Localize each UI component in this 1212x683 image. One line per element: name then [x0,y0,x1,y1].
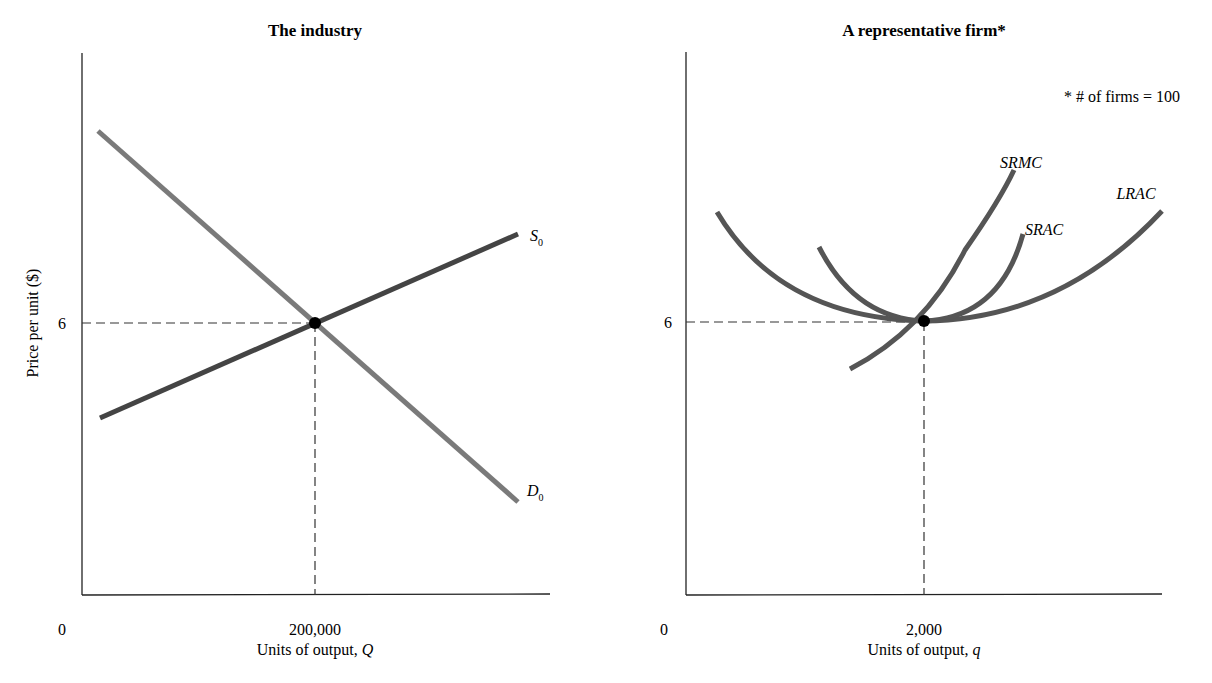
lrac-label: LRAC [1115,185,1155,202]
demand-curve [98,131,518,502]
y-tick-6: 6 [58,315,66,332]
supply-curve [100,234,518,418]
equilibrium-point [918,315,930,327]
srac-curve [819,234,1023,321]
industry-title: The industry [268,21,362,40]
equilibrium-point [309,317,321,329]
y-axis-label: Price per unit ($) [24,269,42,378]
origin-label: 0 [660,621,668,638]
lrac-curve [717,211,1162,321]
firms-count-note: * # of firms = 100 [1064,88,1180,105]
x-tick-200000: 200,000 [289,621,341,638]
x-tick-2000: 2,000 [906,621,942,638]
srmc-curve [850,170,1014,369]
x-axis-label: Units of output, Q [257,641,374,659]
origin-label: 0 [58,621,66,638]
firm-title: A representative firm* [842,21,1006,40]
srac-label: SRAC [1025,221,1064,238]
srmc-label: SRMC [1000,154,1042,171]
figure: The industry S0 D0 6 0 200,000 Units of … [0,0,1212,683]
x-axis [82,594,550,595]
demand-label: D0 [526,482,544,503]
y-tick-6: 6 [664,314,672,331]
supply-label: S0 [530,227,543,248]
firm-panel: A representative firm* * # of firms = 10… [660,21,1180,659]
industry-panel: The industry S0 D0 6 0 200,000 Units of … [24,21,550,659]
x-axis-label: Units of output, q [868,641,981,659]
